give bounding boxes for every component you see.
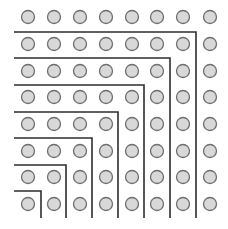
circle-r5-c7 xyxy=(177,118,190,131)
circle-r7-c4 xyxy=(100,171,113,184)
circle-r3-c7 xyxy=(177,65,190,78)
circle-grid-diagram xyxy=(0,0,228,229)
circle-r2-c3 xyxy=(74,38,87,51)
circle-r8-c2 xyxy=(48,198,61,211)
circle-r6-c5 xyxy=(126,145,139,158)
circle-r3-c3 xyxy=(74,65,87,78)
circle-r3-c2 xyxy=(48,65,61,78)
circle-r3-c4 xyxy=(100,65,113,78)
circle-r8-c7 xyxy=(177,198,190,211)
circle-grid xyxy=(22,11,217,211)
circle-r1-c4 xyxy=(100,11,113,24)
circle-r3-c1 xyxy=(22,65,35,78)
circle-r7-c8 xyxy=(204,171,217,184)
circle-r5-c1 xyxy=(22,118,35,131)
circle-r8-c1 xyxy=(22,198,35,211)
circle-r6-c7 xyxy=(177,145,190,158)
circle-r3-c8 xyxy=(204,65,217,78)
circle-r6-c3 xyxy=(74,145,87,158)
circle-r8-c6 xyxy=(151,198,164,211)
circle-r8-c5 xyxy=(126,198,139,211)
circle-r4-c2 xyxy=(48,91,61,104)
circle-r2-c6 xyxy=(151,38,164,51)
circle-r5-c3 xyxy=(74,118,87,131)
circle-r1-c1 xyxy=(22,11,35,24)
circle-r1-c7 xyxy=(177,11,190,24)
circle-r4-c4 xyxy=(100,91,113,104)
circle-r2-c5 xyxy=(126,38,139,51)
circle-r3-c5 xyxy=(126,65,139,78)
circle-r8-c4 xyxy=(100,198,113,211)
circle-r6-c8 xyxy=(204,145,217,158)
circle-r7-c1 xyxy=(22,171,35,184)
circle-r5-c4 xyxy=(100,118,113,131)
circle-r7-c7 xyxy=(177,171,190,184)
circle-r5-c2 xyxy=(48,118,61,131)
circle-r1-c2 xyxy=(48,11,61,24)
circle-r5-c6 xyxy=(151,118,164,131)
circle-r2-c8 xyxy=(204,38,217,51)
circle-r8-c8 xyxy=(204,198,217,211)
circle-r3-c6 xyxy=(151,65,164,78)
circle-r1-c3 xyxy=(74,11,87,24)
circle-r8-c3 xyxy=(74,198,87,211)
circle-r4-c6 xyxy=(151,91,164,104)
circle-r1-c8 xyxy=(204,11,217,24)
circle-r6-c2 xyxy=(48,145,61,158)
circle-r2-c2 xyxy=(48,38,61,51)
circle-r6-c4 xyxy=(100,145,113,158)
circle-r7-c6 xyxy=(151,171,164,184)
circle-r4-c7 xyxy=(177,91,190,104)
circle-r4-c8 xyxy=(204,91,217,104)
circle-r6-c1 xyxy=(22,145,35,158)
circle-r7-c3 xyxy=(74,171,87,184)
circle-r4-c3 xyxy=(74,91,87,104)
circle-r1-c6 xyxy=(151,11,164,24)
circle-r1-c5 xyxy=(126,11,139,24)
circle-r2-c4 xyxy=(100,38,113,51)
circle-r5-c5 xyxy=(126,118,139,131)
circle-r4-c5 xyxy=(126,91,139,104)
circle-r2-c7 xyxy=(177,38,190,51)
circle-r4-c1 xyxy=(22,91,35,104)
circle-r5-c8 xyxy=(204,118,217,131)
circle-r2-c1 xyxy=(22,38,35,51)
circle-r7-c5 xyxy=(126,171,139,184)
circle-r7-c2 xyxy=(48,171,61,184)
circle-r6-c6 xyxy=(151,145,164,158)
